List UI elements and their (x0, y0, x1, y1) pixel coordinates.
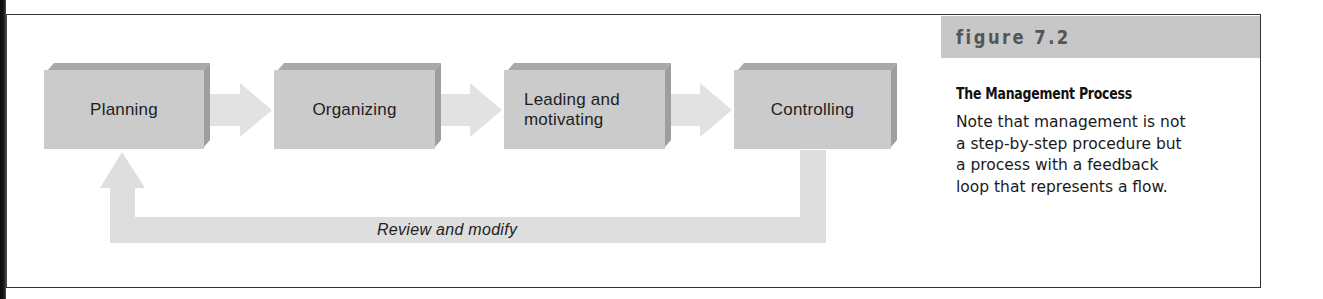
step-box-organizing: Organizing (274, 70, 435, 149)
arrow-right-icon (440, 83, 502, 137)
caption-line: Note that management is not (956, 112, 1256, 134)
box-bevel (891, 63, 897, 147)
step-label: Organizing (312, 100, 396, 120)
feedback-loop-label: Review and modify (377, 221, 517, 239)
box-bevel (508, 63, 671, 70)
arrow-right-icon (210, 83, 272, 137)
step-label: Controlling (771, 100, 854, 120)
box-bevel (204, 63, 210, 147)
figure-number: figure 7.2 (956, 25, 1071, 49)
box-bevel (435, 63, 441, 147)
step-label: Planning (90, 100, 158, 120)
step-box-leading-and-motivating: Leading and motivating (504, 70, 665, 149)
box-bevel (738, 63, 897, 70)
step-box-planning: Planning (44, 70, 204, 149)
step-label-line: Leading and (524, 90, 620, 110)
step-box-controlling: Controlling (734, 70, 891, 149)
box-bevel (665, 63, 671, 147)
arrow-right-icon (670, 83, 732, 137)
step-label-line: motivating (524, 110, 620, 130)
caption-line: a process with a feedback (956, 155, 1256, 177)
box-bevel (48, 63, 210, 70)
caption-line: a step-by-step procedure but (956, 134, 1256, 156)
figure-caption-body: Note that management is not a step-by-st… (956, 112, 1256, 198)
caption-line: loop that represents a flow. (956, 177, 1256, 199)
step-label: Leading and motivating (524, 90, 620, 130)
box-bevel (278, 63, 441, 70)
figure-title: The Management Process (956, 84, 1132, 103)
